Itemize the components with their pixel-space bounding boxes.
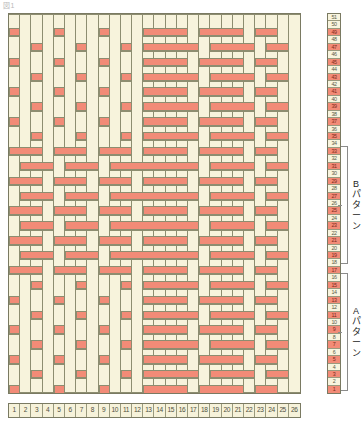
- weave-cell-weft[interactable]: [99, 356, 110, 363]
- weave-cell-weft[interactable]: [99, 118, 110, 125]
- weave-cell-warp[interactable]: [99, 319, 110, 326]
- weave-cell-warp[interactable]: [278, 297, 289, 304]
- weave-cell-warp[interactable]: [76, 297, 87, 304]
- weave-cell-warp[interactable]: [255, 312, 266, 319]
- weave-cell-warp[interactable]: [255, 140, 266, 147]
- weave-cell-warp[interactable]: [65, 14, 76, 21]
- weave-cell-warp[interactable]: [121, 21, 132, 28]
- weave-cell-warp[interactable]: [289, 36, 300, 43]
- weave-cell-weft[interactable]: [177, 252, 188, 259]
- weave-cell-weft[interactable]: [266, 297, 277, 304]
- weave-cell-warp[interactable]: [289, 193, 300, 200]
- weave-cell-warp[interactable]: [188, 111, 199, 118]
- weave-cell-warp[interactable]: [143, 51, 154, 58]
- weave-cell-warp[interactable]: [110, 371, 121, 378]
- weave-cell-warp[interactable]: [266, 51, 277, 58]
- weave-cell-warp[interactable]: [166, 126, 177, 133]
- weave-cell-warp[interactable]: [65, 259, 76, 266]
- weave-cell-warp[interactable]: [278, 378, 289, 385]
- weave-cell-weft[interactable]: [43, 193, 54, 200]
- weave-cell-weft[interactable]: [278, 44, 289, 51]
- weave-cell-warp[interactable]: [99, 349, 110, 356]
- weave-cell-warp[interactable]: [31, 274, 42, 281]
- weave-cell-weft[interactable]: [76, 371, 87, 378]
- weave-cell-warp[interactable]: [255, 282, 266, 289]
- weave-cell-warp[interactable]: [20, 81, 31, 88]
- weave-cell-warp[interactable]: [76, 21, 87, 28]
- weave-cell-weft[interactable]: [266, 386, 277, 393]
- weave-cell-warp[interactable]: [65, 215, 76, 222]
- weave-cell-weft[interactable]: [121, 44, 132, 51]
- weave-cell-warp[interactable]: [244, 334, 255, 341]
- weave-cell-weft[interactable]: [177, 74, 188, 81]
- weave-cell-warp[interactable]: [210, 304, 221, 311]
- weave-cell-warp[interactable]: [289, 59, 300, 66]
- weave-cell-warp[interactable]: [65, 304, 76, 311]
- weave-cell-warp[interactable]: [31, 319, 42, 326]
- weave-cell-weft[interactable]: [244, 163, 255, 170]
- weave-cell-weft[interactable]: [76, 252, 87, 259]
- weave-cell-warp[interactable]: [188, 237, 199, 244]
- weave-cell-warp[interactable]: [143, 96, 154, 103]
- weave-cell-warp[interactable]: [244, 304, 255, 311]
- weave-cell-warp[interactable]: [87, 282, 98, 289]
- weave-cell-warp[interactable]: [65, 29, 76, 36]
- weave-cell-warp[interactable]: [9, 334, 20, 341]
- weave-cell-weft[interactable]: [154, 341, 165, 348]
- weave-cell-weft[interactable]: [87, 222, 98, 229]
- weave-cell-warp[interactable]: [222, 378, 233, 385]
- weave-cell-warp[interactable]: [9, 74, 20, 81]
- weave-cell-weft[interactable]: [233, 133, 244, 140]
- weave-cell-warp[interactable]: [110, 81, 121, 88]
- weave-cell-warp[interactable]: [154, 274, 165, 281]
- weave-cell-warp[interactable]: [132, 326, 143, 333]
- weave-cell-weft[interactable]: [166, 356, 177, 363]
- weave-cell-weft[interactable]: [188, 222, 199, 229]
- weave-cell-warp[interactable]: [199, 155, 210, 162]
- weave-cell-warp[interactable]: [132, 155, 143, 162]
- weave-cell-warp[interactable]: [289, 103, 300, 110]
- weave-cell-weft[interactable]: [76, 148, 87, 155]
- weave-cell-warp[interactable]: [255, 81, 266, 88]
- weave-cell-warp[interactable]: [166, 230, 177, 237]
- weave-cell-warp[interactable]: [210, 126, 221, 133]
- weave-cell-weft[interactable]: [154, 252, 165, 259]
- weave-cell-warp[interactable]: [289, 245, 300, 252]
- weave-cell-weft[interactable]: [154, 207, 165, 214]
- weave-cell-warp[interactable]: [31, 66, 42, 73]
- weave-cell-weft[interactable]: [166, 207, 177, 214]
- weave-cell-weft[interactable]: [233, 267, 244, 274]
- weave-cell-warp[interactable]: [54, 222, 65, 229]
- weave-cell-warp[interactable]: [154, 319, 165, 326]
- weave-cell-weft[interactable]: [166, 103, 177, 110]
- weave-cell-warp[interactable]: [154, 140, 165, 147]
- weave-cell-warp[interactable]: [244, 170, 255, 177]
- weave-cell-warp[interactable]: [110, 356, 121, 363]
- weave-cell-weft[interactable]: [54, 297, 65, 304]
- weave-cell-warp[interactable]: [210, 185, 221, 192]
- weave-cell-warp[interactable]: [87, 74, 98, 81]
- weave-cell-warp[interactable]: [233, 378, 244, 385]
- weave-cell-warp[interactable]: [188, 118, 199, 125]
- weave-cell-warp[interactable]: [43, 230, 54, 237]
- weave-cell-warp[interactable]: [132, 386, 143, 393]
- weave-cell-warp[interactable]: [121, 230, 132, 237]
- weave-cell-warp[interactable]: [210, 140, 221, 147]
- weave-cell-warp[interactable]: [143, 245, 154, 252]
- weave-cell-warp[interactable]: [177, 334, 188, 341]
- weave-cell-warp[interactable]: [199, 133, 210, 140]
- weave-cell-warp[interactable]: [188, 155, 199, 162]
- weave-cell-warp[interactable]: [188, 349, 199, 356]
- weave-cell-weft[interactable]: [210, 252, 221, 259]
- weave-cell-warp[interactable]: [76, 319, 87, 326]
- weave-cell-weft[interactable]: [266, 88, 277, 95]
- weave-cell-warp[interactable]: [54, 170, 65, 177]
- weave-cell-warp[interactable]: [20, 297, 31, 304]
- weave-cell-weft[interactable]: [188, 282, 199, 289]
- weave-cell-warp[interactable]: [143, 289, 154, 296]
- weave-cell-weft[interactable]: [255, 386, 266, 393]
- weave-cell-weft[interactable]: [177, 237, 188, 244]
- weave-cell-warp[interactable]: [255, 126, 266, 133]
- weave-cell-warp[interactable]: [76, 326, 87, 333]
- weave-cell-warp[interactable]: [132, 349, 143, 356]
